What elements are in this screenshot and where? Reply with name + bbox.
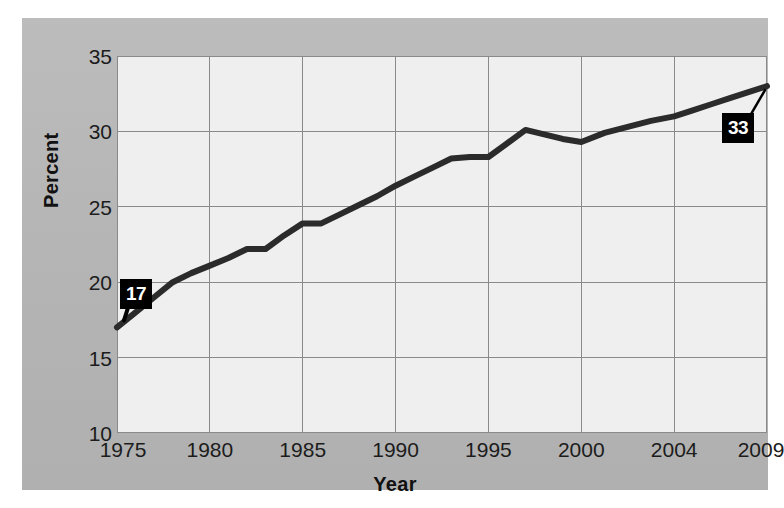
annotation-leader-lines [124, 90, 765, 320]
chart-panel: Percent 101520253035 1975198019851990199… [22, 18, 768, 490]
plot-svg [117, 56, 767, 433]
vertical-gridlines [118, 56, 767, 433]
x-axis-title: Year [22, 473, 768, 496]
y-axis-tick-labels: 101520253035 [62, 56, 112, 433]
annotation-start-value: 17 [120, 279, 152, 309]
x-tick-label-1995: 1995 [465, 439, 512, 460]
x-tick-label-2009: 2009 [738, 439, 784, 460]
x-axis-tick-labels: 19751980198519901995200020042009 [117, 439, 767, 469]
x-tick-label-2000: 2000 [558, 439, 605, 460]
horizontal-gridlines [117, 57, 767, 433]
y-axis-title: Percent [40, 133, 63, 208]
x-tick-label-1985: 1985 [279, 439, 326, 460]
y-tick-label-30: 30 [66, 121, 112, 142]
x-tick-label-1980: 1980 [186, 439, 233, 460]
y-tick-label-35: 35 [66, 46, 112, 67]
y-tick-label-15: 15 [66, 347, 112, 368]
y-tick-label-20: 20 [66, 272, 112, 293]
y-tick-label-25: 25 [66, 196, 112, 217]
x-tick-label-1990: 1990 [372, 439, 419, 460]
x-tick-label-2004: 2004 [651, 439, 698, 460]
x-tick-label-1975: 1975 [100, 439, 147, 460]
plot-area [117, 56, 767, 433]
annotation-end-value: 33 [722, 113, 754, 143]
